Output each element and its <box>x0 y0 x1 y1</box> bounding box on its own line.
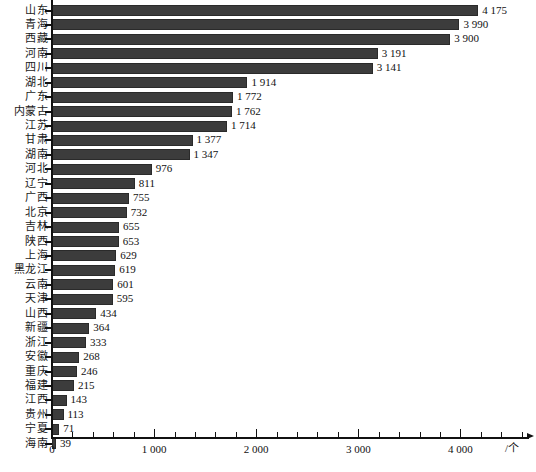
x-axis-minor-tick <box>215 432 216 438</box>
y-axis-tick <box>45 313 52 315</box>
bar <box>52 5 478 16</box>
x-axis-minor-tick <box>175 432 176 438</box>
x-axis-minor-tick <box>93 432 94 438</box>
bar-value-label: 333 <box>90 337 107 348</box>
x-axis-tick-label: 1 000 <box>142 443 167 455</box>
y-axis-tick <box>45 53 52 55</box>
x-axis-major-tick <box>154 429 155 438</box>
bar <box>52 92 233 103</box>
x-axis-minor-tick <box>72 432 73 438</box>
bar <box>52 337 86 348</box>
bar <box>52 380 74 391</box>
x-axis-tick-label: 4 000 <box>448 443 473 455</box>
bar-value-label: 595 <box>117 293 134 304</box>
bar <box>52 106 232 117</box>
x-axis-minor-tick <box>440 432 441 438</box>
category-axis: 山东青海西藏河南四川湖北广东内蒙古江苏甘肃湖南河北辽宁广西北京吉林陕西上海黑龙江… <box>0 0 48 440</box>
y-axis-tick <box>45 212 52 214</box>
bar-value-label: 39 <box>60 438 71 449</box>
x-axis-minor-tick <box>134 432 135 438</box>
bar-value-label: 755 <box>133 192 150 203</box>
x-axis-minor-tick <box>297 432 298 438</box>
x-axis-minor-tick <box>522 432 523 438</box>
bar <box>52 279 113 290</box>
bar-value-label: 268 <box>83 351 100 362</box>
category-label: 黑龙江 <box>14 264 48 275</box>
y-axis-tick <box>45 168 52 170</box>
y-axis-tick <box>45 399 52 401</box>
bar <box>52 121 227 132</box>
x-axis-minor-tick <box>277 432 278 438</box>
y-axis-tick <box>45 125 52 127</box>
x-axis-major-tick <box>52 429 53 438</box>
bar <box>52 135 193 146</box>
y-axis-tick <box>45 371 52 373</box>
bar <box>52 149 190 160</box>
bar-value-label: 732 <box>131 207 148 218</box>
bar <box>52 236 119 247</box>
bar <box>52 164 152 175</box>
bar-value-label: 3 900 <box>454 33 479 44</box>
y-axis-tick <box>45 327 52 329</box>
bar-value-label: 364 <box>93 322 110 333</box>
x-axis-arrow-icon <box>527 433 534 439</box>
x-axis-minor-tick <box>379 432 380 438</box>
bar-value-label: 113 <box>68 409 84 420</box>
y-axis-tick <box>45 342 52 344</box>
bar <box>52 207 127 218</box>
bar-value-label: 215 <box>78 380 95 391</box>
bar-value-label: 143 <box>71 394 88 405</box>
y-axis-tick <box>45 10 52 12</box>
y-axis-tick <box>45 139 52 141</box>
y-axis-tick <box>45 111 52 113</box>
bar <box>52 63 373 74</box>
x-axis-major-tick <box>358 429 359 438</box>
y-axis-tick <box>45 82 52 84</box>
x-axis-minor-tick <box>481 432 482 438</box>
y-axis-tick <box>45 298 52 300</box>
x-axis-tick-label: 3 000 <box>346 443 371 455</box>
bar-value-label: 1 377 <box>197 134 222 145</box>
y-axis-tick <box>45 154 52 156</box>
bar <box>52 395 67 406</box>
x-axis-major-tick <box>256 429 257 438</box>
x-axis-minor-tick <box>420 432 421 438</box>
bar-value-label: 3 141 <box>377 62 402 73</box>
bar <box>52 308 96 319</box>
bar <box>52 294 113 305</box>
bar <box>52 366 77 377</box>
horizontal-bar-chart: 山东青海西藏河南四川湖北广东内蒙古江苏甘肃湖南河北辽宁广西北京吉林陕西上海黑龙江… <box>0 0 536 472</box>
bar <box>52 48 378 59</box>
bar-value-label: 976 <box>156 163 173 174</box>
y-axis-tick <box>45 269 52 271</box>
y-axis-tick <box>45 24 52 26</box>
y-axis-tick <box>45 183 52 185</box>
x-axis-line <box>51 437 529 439</box>
x-axis-tick-label: 2 000 <box>244 443 269 455</box>
bar <box>52 265 115 276</box>
y-axis-tick <box>45 96 52 98</box>
bar-value-label: 811 <box>139 178 155 189</box>
bar-value-label: 4 175 <box>482 5 507 16</box>
y-axis-tick <box>45 428 52 430</box>
y-axis-tick <box>45 38 52 40</box>
bar <box>52 352 79 363</box>
bar <box>52 222 119 233</box>
y-axis-tick <box>45 197 52 199</box>
bar <box>52 77 247 88</box>
bar-value-label: 601 <box>117 279 134 290</box>
y-axis-tick <box>45 356 52 358</box>
x-axis-minor-tick <box>236 432 237 438</box>
bar-value-label: 629 <box>120 250 137 261</box>
plot-area: 4 1753 9903 9003 1913 1411 9141 7721 762… <box>52 0 536 440</box>
bar <box>52 409 64 420</box>
bar-value-label: 619 <box>119 264 136 275</box>
x-axis-minor-tick <box>399 432 400 438</box>
bar <box>52 193 129 204</box>
bar <box>52 19 459 30</box>
bar-value-label: 1 762 <box>236 106 261 117</box>
x-axis-tick-label: 0 <box>49 443 55 455</box>
bar-value-label: 655 <box>123 221 140 232</box>
x-axis-minor-tick <box>317 432 318 438</box>
bar-value-label: 3 990 <box>463 19 488 30</box>
